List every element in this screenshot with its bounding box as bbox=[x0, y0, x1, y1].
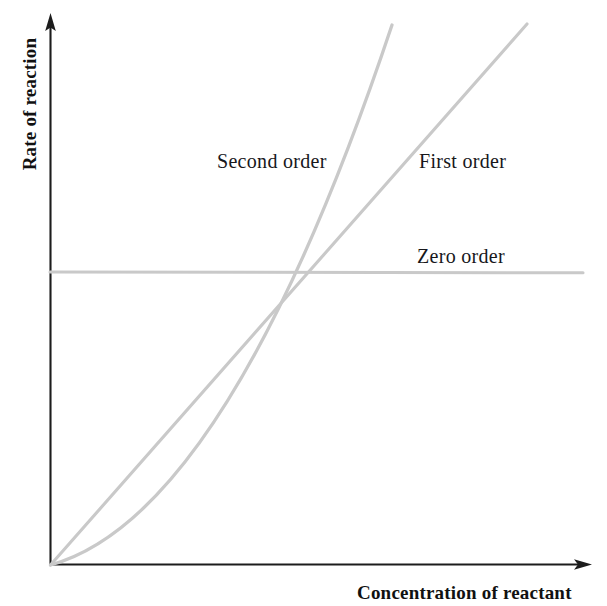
series-label-second-order: Second order bbox=[217, 150, 327, 173]
series-line-first-order bbox=[51, 24, 528, 565]
x-axis-label: Concentration of reactant bbox=[357, 582, 572, 604]
y-axis bbox=[45, 13, 56, 565]
series-label-zero-order: Zero order bbox=[417, 245, 505, 268]
series-label-first-order: First order bbox=[419, 150, 506, 173]
reaction-order-chart: Rate of reaction Concentration of reacta… bbox=[0, 0, 607, 606]
x-axis bbox=[50, 559, 592, 570]
y-axis-label: Rate of reaction bbox=[19, 19, 41, 189]
chart-canvas bbox=[0, 0, 607, 606]
series-line-zero-order bbox=[50, 272, 583, 273]
series-line-second-order bbox=[51, 25, 393, 565]
